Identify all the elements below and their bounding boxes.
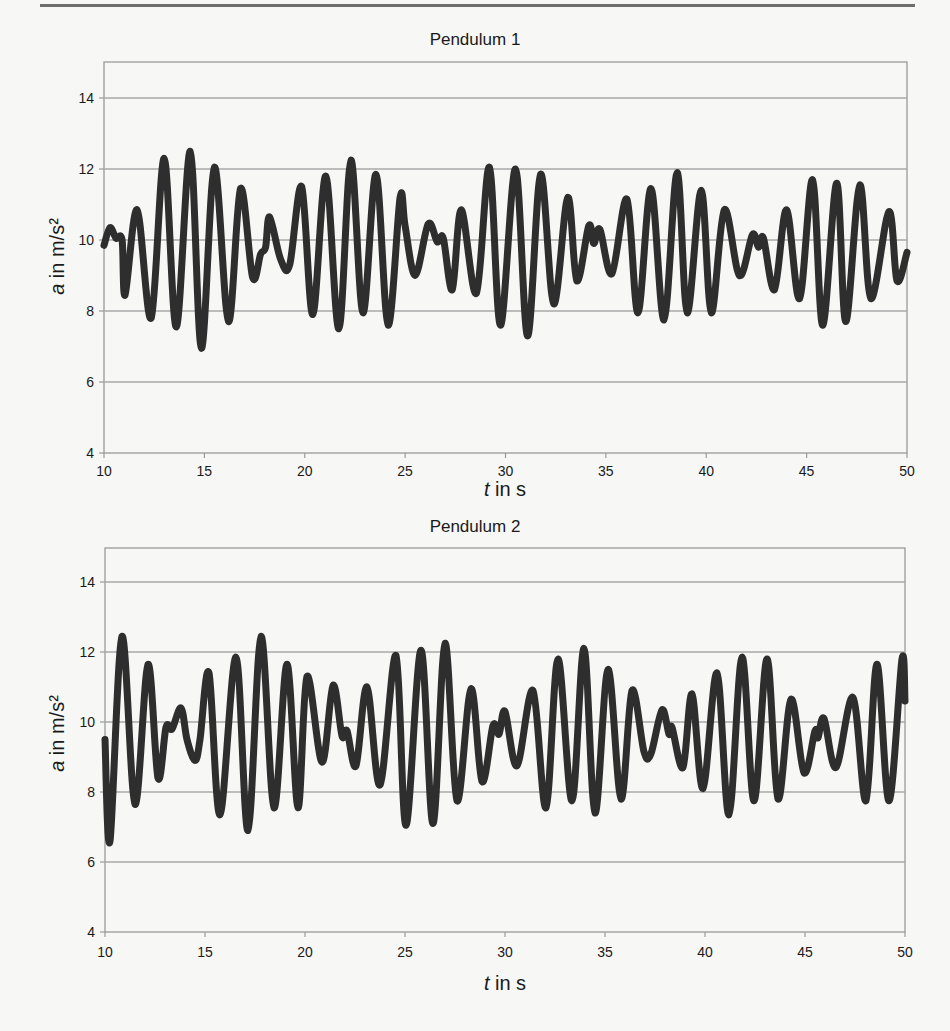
x-tick-label: 35 — [597, 944, 613, 960]
x-tick-label: 10 — [97, 944, 113, 960]
x-tick-label: 20 — [297, 944, 313, 960]
data-line — [105, 636, 905, 843]
x-tick-label: 15 — [197, 944, 213, 960]
x-tick-label: 25 — [397, 944, 413, 960]
y-tick-label: 8 — [87, 784, 95, 800]
x-tick-label: 45 — [797, 944, 813, 960]
chart-pendulum-2: Pendulum 2 a in m/s² t in s 468101214101… — [0, 0, 950, 1031]
y-tick-label: 4 — [87, 924, 95, 940]
x-tick-label: 30 — [497, 944, 513, 960]
y-tick-label: 10 — [79, 714, 95, 730]
x-tick-label: 50 — [897, 944, 913, 960]
x-tick-label: 40 — [697, 944, 713, 960]
plot-area: 468101214101520253035404550 — [0, 0, 950, 1031]
y-tick-label: 14 — [79, 574, 95, 590]
y-tick-label: 12 — [79, 644, 95, 660]
y-tick-label: 6 — [87, 854, 95, 870]
